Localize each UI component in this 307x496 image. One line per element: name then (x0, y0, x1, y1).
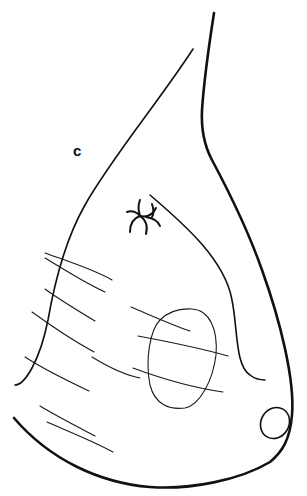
oval-mass (148, 309, 216, 409)
breast-drawing (0, 0, 307, 496)
figure-canvas: c (0, 0, 307, 496)
nipple (255, 402, 295, 444)
calcification-cluster (127, 200, 160, 234)
glandular-boundary (150, 195, 265, 380)
chest-wall-outline (14, 13, 292, 488)
skin-outline (15, 49, 193, 385)
